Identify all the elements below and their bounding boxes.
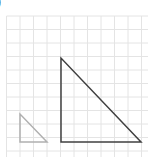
- grid-lines: [7, 16, 149, 157]
- grid-diagram: [0, 0, 148, 157]
